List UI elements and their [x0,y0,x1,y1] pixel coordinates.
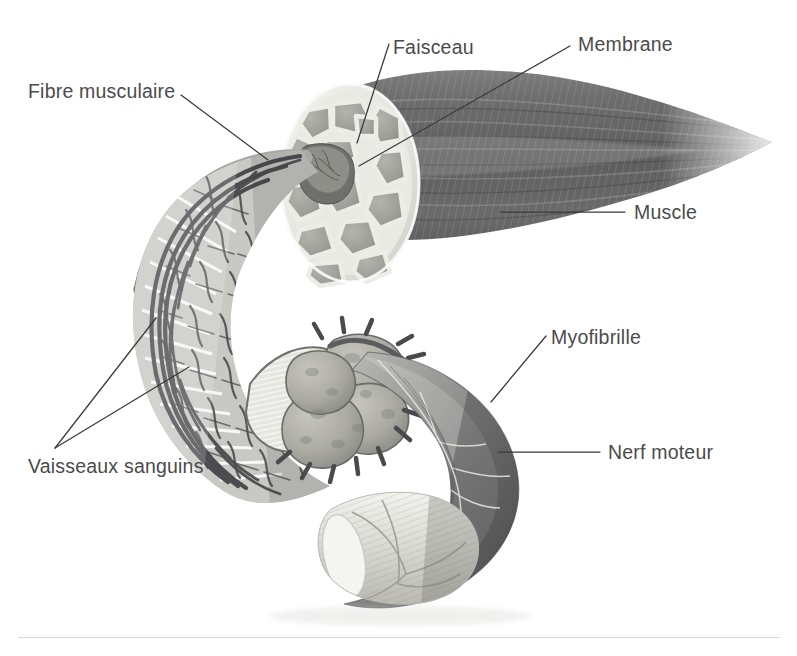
label-fibre-musculaire: Fibre musculaire [28,80,175,103]
leader-myofibrille [491,336,546,402]
label-nerf-moteur: Nerf moteur [608,441,713,464]
leader-vaisseaux-1 [55,318,156,448]
anatomy-figure: Fibre musculaire Faisceau Membrane Muscl… [0,0,797,656]
label-myofibrille: Myofibrille [551,326,641,349]
leader-fibre-musculaire [181,95,268,160]
label-vaisseaux-sanguins: Vaisseaux sanguins [28,455,204,478]
footer-divider [18,637,780,638]
label-faisceau: Faisceau [393,36,474,59]
label-membrane: Membrane [578,33,673,56]
label-muscle: Muscle [634,201,697,224]
